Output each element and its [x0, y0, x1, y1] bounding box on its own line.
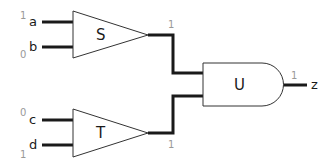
- logic-circuit-diagram: S T U a b c d 1 0 0 1 1 1 1 z: [0, 0, 335, 168]
- input-a-value: 1: [20, 10, 26, 21]
- gate-s-output-value: 1: [168, 19, 174, 30]
- input-c-label: c: [29, 112, 36, 127]
- gate-t-output-value: 1: [168, 139, 174, 150]
- input-d-value: 1: [20, 149, 26, 160]
- input-c-value: 0: [20, 107, 26, 118]
- output-z-label: z: [311, 77, 318, 92]
- wire-t-to-u: [148, 96, 203, 133]
- gate-s: [73, 11, 148, 58]
- input-b-value: 0: [20, 49, 26, 60]
- input-a-label: a: [29, 14, 37, 29]
- gate-t: [73, 109, 148, 157]
- wire-s-to-u: [148, 35, 203, 73]
- gate-u-label: U: [234, 76, 245, 94]
- input-b-label: b: [29, 39, 37, 54]
- gate-t-label: T: [95, 124, 106, 142]
- gate-s-label: S: [96, 26, 106, 44]
- input-d-label: d: [29, 137, 37, 152]
- gate-u-output-value: 1: [291, 70, 297, 81]
